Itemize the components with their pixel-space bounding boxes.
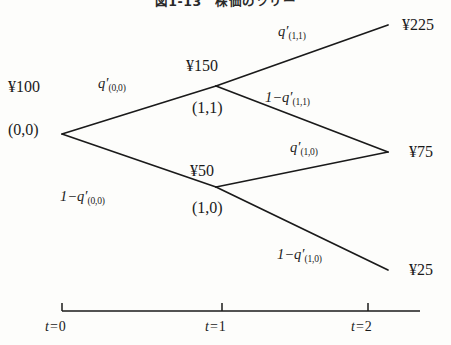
- branch-label-down-up: q′(1,0): [290, 140, 318, 158]
- time-tick-label-0-value: 0: [59, 319, 66, 334]
- branch-label-down-down-prefix: 1−: [277, 246, 294, 262]
- branch-label-up-up-symbol: q′: [278, 23, 288, 39]
- time-tick-label-0-eq: =: [49, 319, 59, 334]
- branch-label-down-down: 1−q′(1,0): [277, 247, 322, 265]
- branch-label-root-down-subscript: (0,0): [87, 196, 104, 206]
- edge-root-down: [62, 134, 216, 187]
- node-price-root: ¥100: [8, 79, 40, 95]
- branch-label-root-down-symbol: q′: [77, 188, 87, 204]
- time-tick-label-1-value: 1: [219, 319, 226, 334]
- stock-price-tree-figure: 図1-13 株価のツリー ¥100 (0,0) ¥150 (1,1) ¥: [0, 0, 451, 345]
- branch-label-up-up: q′(1,1): [278, 24, 306, 42]
- branch-label-down-down-subscript: (1,0): [304, 254, 321, 264]
- time-tick-label-2-eq: =: [355, 319, 365, 334]
- branch-label-down-down-symbol: q′: [294, 246, 304, 262]
- node-state-down: (1,0): [192, 200, 223, 216]
- branch-label-down-up-subscript: (1,0): [300, 147, 317, 157]
- terminal-price-up: ¥225: [402, 17, 434, 33]
- branch-label-root-down-prefix: 1−: [60, 188, 77, 204]
- branch-label-root-up: q′(0,0): [98, 76, 126, 94]
- branch-label-root-up-symbol: q′: [98, 75, 108, 91]
- tree-edges-and-axis: [0, 0, 451, 345]
- terminal-price-mid: ¥75: [409, 144, 433, 160]
- branch-label-root-down: 1−q′(0,0): [60, 189, 105, 207]
- node-state-root: (0,0): [8, 122, 39, 138]
- branch-label-up-down: 1−q′(1,1): [265, 90, 310, 108]
- time-tick-label-2: t=2: [351, 320, 372, 334]
- node-price-down: ¥50: [190, 163, 214, 179]
- time-tick-label-1-eq: =: [209, 319, 219, 334]
- node-state-up: (1,1): [192, 100, 223, 116]
- time-tick-label-2-value: 2: [365, 319, 372, 334]
- branch-label-up-down-prefix: 1−: [265, 89, 282, 105]
- branch-label-up-up-subscript: (1,1): [288, 31, 305, 41]
- time-tick-label-0: t=0: [45, 320, 66, 334]
- node-price-up: ¥150: [186, 58, 218, 74]
- branch-label-root-up-subscript: (0,0): [108, 83, 125, 93]
- branch-label-up-down-symbol: q′: [282, 89, 292, 105]
- branch-label-up-down-subscript: (1,1): [292, 97, 309, 107]
- terminal-price-down: ¥25: [409, 262, 433, 278]
- time-tick-label-1: t=1: [205, 320, 226, 334]
- branch-label-down-up-symbol: q′: [290, 139, 300, 155]
